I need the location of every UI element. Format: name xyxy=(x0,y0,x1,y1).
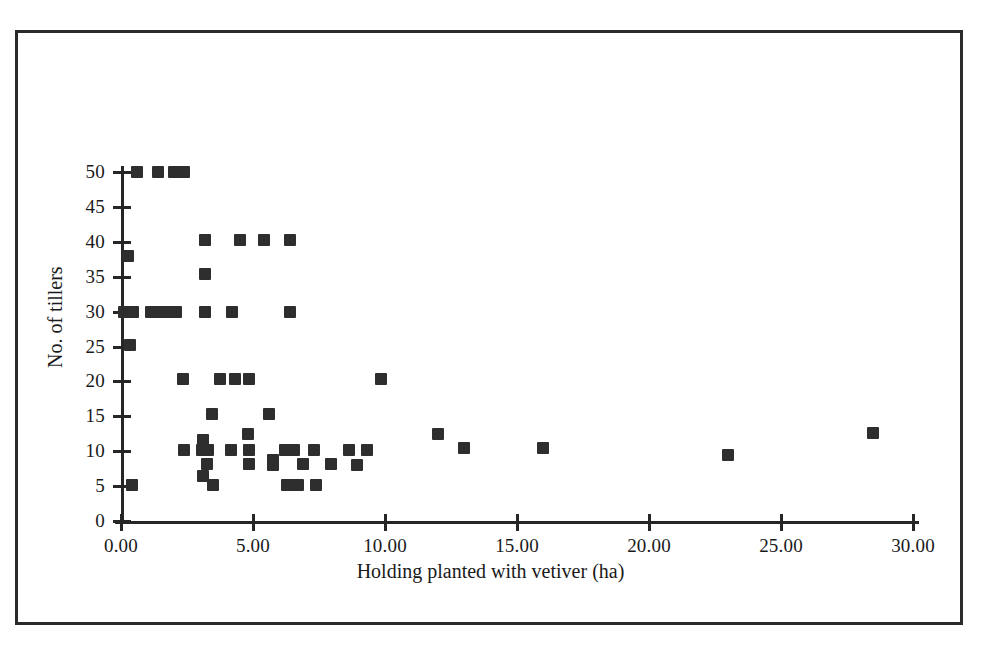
figure-border xyxy=(15,30,963,625)
x-axis-title: Holding planted with vetiver (ha) xyxy=(357,560,625,583)
y-axis-title: No. of tillers xyxy=(44,266,67,368)
figure-container: 0.005.0010.0015.0020.0025.0030.000510152… xyxy=(0,0,981,648)
